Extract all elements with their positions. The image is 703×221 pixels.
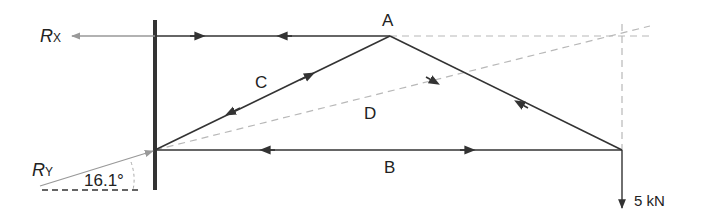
ry-symbol: R xyxy=(32,160,45,180)
rx-symbol: R xyxy=(40,26,53,46)
ry-label: RY xyxy=(32,160,53,181)
member-b-label: B xyxy=(384,158,395,178)
member-c-label: C xyxy=(255,73,267,93)
member-direction-arrows xyxy=(190,36,528,150)
node-a-label: A xyxy=(382,11,393,31)
load-label: 5 kN xyxy=(634,192,665,209)
angle-label: 16.1° xyxy=(84,171,124,191)
member-d-label: D xyxy=(364,104,376,124)
rx-label: RX xyxy=(40,26,61,47)
rx-subscript: X xyxy=(53,31,61,45)
ry-subscript: Y xyxy=(45,165,53,179)
angle-arc xyxy=(131,162,134,190)
